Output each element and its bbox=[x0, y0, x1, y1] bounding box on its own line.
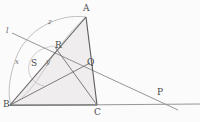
angle-label-x: x bbox=[15, 59, 19, 66]
point-label-P: P bbox=[157, 88, 163, 97]
angle-label-y: y bbox=[46, 59, 50, 66]
figure-canvas bbox=[0, 0, 200, 122]
point-label-Q: Q bbox=[87, 58, 94, 67]
line-label-l: l bbox=[6, 27, 9, 35]
triangle-abc-fill bbox=[10, 16, 97, 105]
geometry-figure: A B C P Q R S x y z l bbox=[0, 0, 200, 122]
point-label-R: R bbox=[55, 41, 62, 50]
point-label-S: S bbox=[31, 59, 37, 68]
point-label-B: B bbox=[3, 100, 10, 109]
point-label-C: C bbox=[94, 108, 101, 117]
point-label-A: A bbox=[83, 4, 90, 13]
angle-label-z: z bbox=[48, 19, 52, 26]
